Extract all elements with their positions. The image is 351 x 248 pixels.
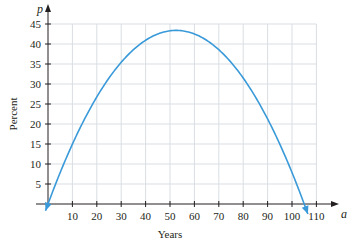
- x-axis-title: Years: [158, 228, 183, 240]
- y-tick-label: 15: [30, 138, 42, 150]
- curve-arrow-icon: [45, 202, 52, 211]
- x-tick-label: 60: [189, 210, 201, 222]
- curve-arrow-icon: [302, 205, 309, 214]
- x-tick-label: 10: [67, 210, 79, 222]
- y-tick-label: 5: [36, 178, 42, 190]
- grid-lines: [48, 24, 316, 204]
- x-tick-label: 70: [213, 210, 225, 222]
- y-tick-label: 40: [30, 38, 42, 50]
- x-tick-label: 80: [238, 210, 250, 222]
- y-axis-arrow-icon: [45, 4, 51, 12]
- chart: 102030405060708090100110 510152025303540…: [0, 0, 351, 248]
- y-axis-title: Percent: [7, 98, 19, 131]
- y-tick-label: 20: [30, 118, 42, 130]
- curve-line: [46, 30, 308, 214]
- y-tick-label: 10: [30, 158, 42, 170]
- x-tick-label: 40: [140, 210, 152, 222]
- y-tick-label: 25: [30, 98, 42, 110]
- x-tick-label: 90: [262, 210, 274, 222]
- data-curve: [45, 30, 308, 214]
- x-tick-label: 100: [284, 210, 301, 222]
- x-tick-label: 20: [91, 210, 103, 222]
- x-axis-arrow-icon: [331, 201, 339, 207]
- x-variable-label: a: [341, 207, 347, 221]
- x-tick-label: 50: [165, 210, 177, 222]
- x-tick-label: 30: [116, 210, 128, 222]
- y-axis-ticks: 51015202530354045: [30, 18, 51, 190]
- y-tick-label: 45: [30, 18, 42, 30]
- y-tick-label: 30: [30, 78, 42, 90]
- x-tick-label: 110: [308, 210, 325, 222]
- y-variable-label: p: [36, 2, 43, 16]
- y-tick-label: 35: [30, 58, 42, 70]
